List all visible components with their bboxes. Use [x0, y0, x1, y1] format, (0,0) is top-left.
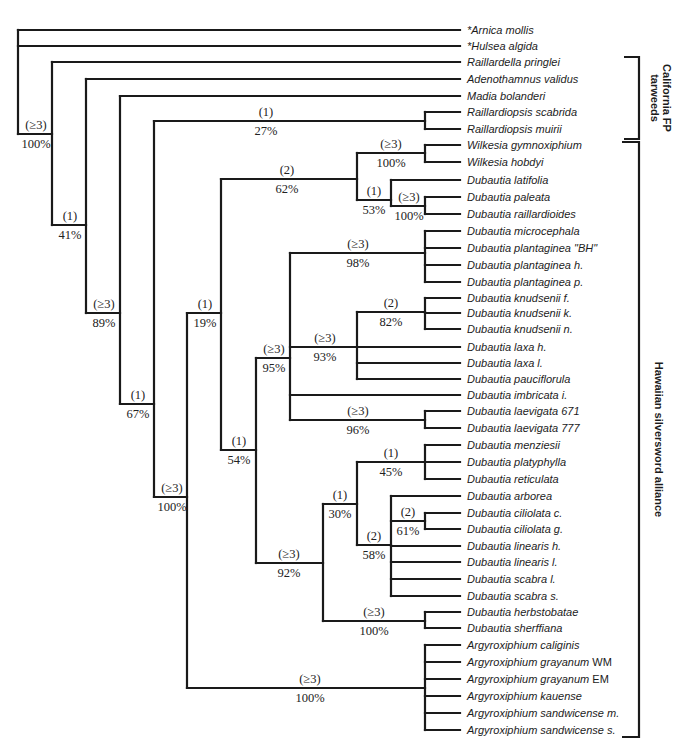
taxon-label: Dubautia laxa h. [467, 341, 547, 353]
decay-index-nPal: (≥3) [398, 190, 419, 204]
taxon-label: Dubautia sherffiana [467, 622, 562, 634]
taxon-label: Wilkesia hobdyi [467, 156, 544, 168]
taxon-label: Dubautia knudsenii n. [467, 323, 573, 335]
decay-index-n100hsa: (≥3) [161, 481, 182, 495]
node-support-labels: (≥3)100%(1)41%(≥3)89%(1)67%(1)27%(≥3)100… [21, 105, 423, 705]
taxon-label: Dubautia platyphylla [467, 456, 566, 468]
bootstrap-nArgy: 100% [295, 691, 324, 705]
taxon-label: Dubautia laevigata 777 [467, 422, 580, 434]
decay-index-n100a: (≥3) [25, 118, 46, 132]
taxon-labels: *Arnica mollis*Hulsea algidaRaillardella… [466, 24, 619, 736]
taxon-label: Dubautia plantaginea "BH" [467, 242, 598, 254]
bootstrap-n30: 30% [329, 507, 352, 521]
decay-index-n95: (≥3) [263, 342, 284, 356]
bootstrap-n98: 98% [347, 256, 370, 270]
bootstrap-n89: 89% [93, 316, 116, 330]
population-code: EM [589, 673, 609, 685]
group-label-california: California FP [661, 64, 673, 132]
decay-index-n98: (≥3) [347, 237, 368, 251]
taxon-label: Dubautia herbstobatae [467, 606, 578, 618]
bootstrap-n45: 45% [380, 465, 403, 479]
bootstrap-n82: 82% [380, 315, 403, 329]
taxon-label: Raillardiopsis scabrida [467, 106, 577, 118]
bootstrap-n27: 27% [255, 124, 278, 138]
decay-index-n27: (1) [259, 105, 274, 119]
bootstrap-nWilk: 100% [376, 156, 405, 170]
decay-index-nArgy: (≥3) [299, 672, 320, 686]
taxon-label: Argyroxiphium sandwicense s. [466, 724, 616, 736]
taxon-label: Argyroxiphium grayanum EM [466, 673, 609, 685]
taxon-label: Dubautia microcephala [467, 225, 580, 237]
tree-edges [18, 30, 460, 730]
taxon-label: Raillardiopsis muirii [467, 123, 562, 135]
decay-index-n92: (≥3) [278, 547, 299, 561]
bootstrap-n41: 41% [59, 228, 82, 242]
bootstrap-n100hsa: 100% [157, 500, 186, 514]
taxon-label: Dubautia menziesii [467, 439, 560, 451]
bootstrap-n95: 95% [263, 361, 286, 375]
bracket-hawaiian [622, 142, 639, 737]
decay-index-n58: (2) [367, 529, 382, 543]
bootstrap-n96: 96% [347, 423, 370, 437]
taxon-label: *Hulsea algida [467, 40, 538, 52]
taxon-label: Dubautia knudsenii k. [467, 307, 572, 319]
decay-index-n53: (1) [367, 184, 382, 198]
taxon-label: Dubautia ciliolata g. [467, 523, 563, 535]
taxon-label: Dubautia scabra s. [467, 590, 559, 602]
taxon-label: Dubautia plantaginea h. [467, 259, 583, 271]
population-code: WM [589, 656, 612, 668]
bootstrap-n54: 54% [228, 453, 251, 467]
taxon-label: Dubautia laxa l. [467, 357, 543, 369]
taxon-label: Adenothamnus validus [466, 73, 579, 85]
taxon-label: Dubautia imbricata i. [467, 389, 567, 401]
taxon-label: Dubautia raillardioides [467, 208, 576, 220]
bootstrap-n53: 53% [363, 203, 386, 217]
taxon-label: *Arnica mollis [467, 24, 534, 36]
decay-index-n93: (≥3) [314, 331, 335, 345]
clade-brackets: California FPtarweedsHawaiian silverswor… [622, 57, 673, 737]
bootstrap-n19: 19% [194, 316, 217, 330]
taxon-label: Dubautia linearis l. [467, 556, 558, 568]
decay-index-n45: (1) [384, 446, 399, 460]
taxon-label: Dubautia plantaginea p. [467, 276, 583, 288]
bootstrap-nPal: 100% [394, 209, 423, 223]
decay-index-nHerb: (≥3) [363, 605, 384, 619]
taxon-label: Argyroxiphium kauense [466, 690, 582, 702]
decay-index-n19: (1) [198, 297, 213, 311]
decay-index-n61: (2) [401, 505, 416, 519]
bootstrap-n61: 61% [397, 524, 420, 538]
taxon-label: Dubautia paleata [467, 191, 550, 203]
bootstrap-n92: 92% [278, 566, 301, 580]
decay-index-n41: (1) [63, 209, 78, 223]
taxon-label: Dubautia laevigata 671 [467, 405, 580, 417]
taxon-label: Dubautia scabra l. [467, 573, 556, 585]
decay-index-n89: (≥3) [93, 297, 114, 311]
taxon-label: Raillardella pringlei [467, 56, 560, 68]
decay-index-n62: (2) [280, 163, 295, 177]
decay-index-n54: (1) [232, 434, 247, 448]
taxon-label: Wilkesia gymnoxiphium [467, 139, 582, 151]
taxon-label: Dubautia arborea [467, 490, 552, 502]
taxon-label: Madia bolanderi [467, 90, 546, 102]
taxon-label: Argyroxiphium grayanum WM [466, 656, 612, 668]
bootstrap-n67: 67% [127, 407, 150, 421]
decay-index-n67: (1) [131, 388, 146, 402]
taxon-label: Dubautia ciliolata c. [467, 507, 562, 519]
bootstrap-n93: 93% [314, 350, 337, 364]
bootstrap-n62: 62% [276, 182, 299, 196]
decay-index-nWilk: (≥3) [380, 137, 401, 151]
decay-index-n30: (1) [333, 488, 348, 502]
group-label-california: tarweeds [649, 74, 661, 122]
decay-index-n82: (2) [384, 296, 399, 310]
group-label-hawaiian: Hawaiian silversword alliance [653, 362, 665, 517]
decay-index-n96: (≥3) [347, 404, 368, 418]
taxon-label: Dubautia knudsenii f. [467, 292, 570, 304]
taxon-label: Dubautia reticulata [467, 473, 559, 485]
taxon-label: Argyroxiphium caliginis [466, 639, 580, 651]
bracket-california [624, 57, 639, 139]
bootstrap-n100a: 100% [21, 137, 50, 151]
taxon-label: Dubautia linearis h. [467, 540, 561, 552]
taxon-label: Dubautia pauciflorula [467, 373, 570, 385]
bootstrap-nHerb: 100% [359, 624, 388, 638]
taxon-label: Dubautia latifolia [467, 174, 548, 186]
